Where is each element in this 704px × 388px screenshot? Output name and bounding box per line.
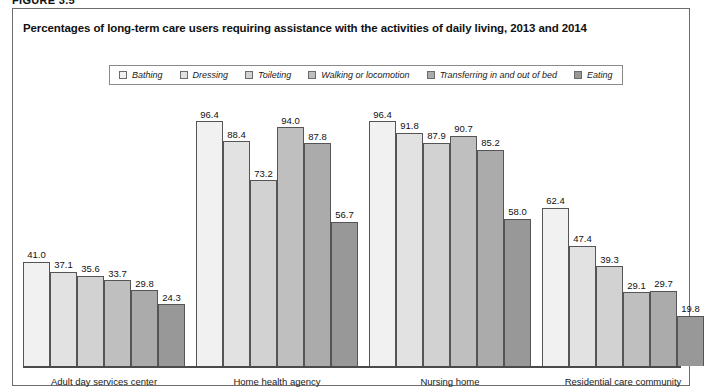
bar[interactable] [423,143,450,366]
bar-value-label: 88.4 [227,130,246,140]
bar[interactable] [569,246,596,366]
x-axis-category-label: Home health agency [196,376,358,387]
bar-column[interactable]: 85.2 [477,99,504,366]
bar[interactable] [369,121,396,366]
bar-column[interactable]: 56.7 [331,99,358,366]
bar[interactable] [331,222,358,366]
bar[interactable] [504,219,531,366]
bar[interactable] [450,136,477,366]
bar-value-label: 35.6 [81,264,100,274]
bar-column[interactable]: 87.9 [423,99,450,366]
bar-column[interactable]: 35.6 [77,99,104,366]
bar[interactable] [304,143,331,366]
bar-value-label: 37.1 [54,260,73,270]
bar[interactable] [250,180,277,366]
bar[interactable] [650,291,677,366]
bar-column[interactable]: 91.8 [396,99,423,366]
bar-column[interactable]: 94.0 [277,99,304,366]
bar-groups: 41.037.135.633.729.824.3Adult day servic… [23,99,681,366]
figure-number-label: FIGURE 3.5 [12,0,75,6]
bar-column[interactable]: 39.3 [596,99,623,366]
bar[interactable] [677,316,704,366]
bar-group: 62.447.439.329.129.719.8Residential care… [542,99,704,366]
bar[interactable] [542,208,569,366]
bar-value-label: 62.4 [546,196,565,206]
bar[interactable] [23,262,50,366]
bar-value-label: 29.8 [135,279,154,289]
bar-value-label: 24.3 [162,293,181,303]
bar[interactable] [104,280,131,366]
figure-panel: Percentages of long-term care users requ… [12,8,690,386]
bar-value-label: 96.4 [200,110,219,120]
bar-value-label: 19.8 [681,304,700,314]
bar-value-label: 90.7 [454,124,473,134]
plot-area: 41.037.135.633.729.824.3Adult day servic… [13,9,691,387]
bar-column[interactable]: 87.8 [304,99,331,366]
bar[interactable] [477,150,504,366]
bar-group: 96.491.887.990.785.258.0Nursing home [369,99,531,366]
bar-column[interactable]: 73.2 [250,99,277,366]
bar[interactable] [50,272,77,366]
bar-column[interactable]: 47.4 [569,99,596,366]
x-axis-category-label: Adult day services center [23,376,185,387]
bar[interactable] [158,304,185,366]
bar[interactable] [77,276,104,366]
bar-value-label: 56.7 [335,210,354,220]
bar[interactable] [596,266,623,366]
bar-column[interactable]: 19.8 [677,99,704,366]
bar-value-label: 91.8 [400,121,419,131]
bar-column[interactable]: 96.4 [196,99,223,366]
bar-value-label: 33.7 [108,269,127,279]
bar-column[interactable]: 90.7 [450,99,477,366]
bar[interactable] [223,141,250,366]
bar-value-label: 85.2 [481,138,500,148]
bar-value-label: 41.0 [27,250,46,260]
bar-column[interactable]: 96.4 [369,99,396,366]
bar-value-label: 87.8 [308,132,327,142]
bar-value-label: 29.7 [654,279,673,289]
bar-column[interactable]: 29.8 [131,99,158,366]
bar-column[interactable]: 88.4 [223,99,250,366]
bar-value-label: 29.1 [627,281,646,291]
bar-value-label: 96.4 [373,110,392,120]
x-axis-category-label: Residential care community [542,376,704,387]
bar-column[interactable]: 24.3 [158,99,185,366]
bar-group: 41.037.135.633.729.824.3Adult day servic… [23,99,185,366]
bar-value-label: 87.9 [427,131,446,141]
bar[interactable] [396,133,423,366]
bar-value-label: 94.0 [281,116,300,126]
bar-column[interactable]: 41.0 [23,99,50,366]
bar-value-label: 47.4 [573,234,592,244]
bar-value-label: 39.3 [600,255,619,265]
bar[interactable] [623,292,650,366]
bar[interactable] [277,127,304,366]
bar-column[interactable]: 37.1 [50,99,77,366]
bar[interactable] [131,290,158,366]
bar-column[interactable]: 29.7 [650,99,677,366]
x-axis-category-label: Nursing home [369,376,531,387]
bar-group: 96.488.473.294.087.856.7Home health agen… [196,99,358,366]
bar-value-label: 73.2 [254,169,273,179]
bar-column[interactable]: 29.1 [623,99,650,366]
bar-column[interactable]: 33.7 [104,99,131,366]
x-axis-baseline [23,366,681,368]
bar-column[interactable]: 58.0 [504,99,531,366]
bar-column[interactable]: 62.4 [542,99,569,366]
bar[interactable] [196,121,223,366]
bar-value-label: 58.0 [508,207,527,217]
